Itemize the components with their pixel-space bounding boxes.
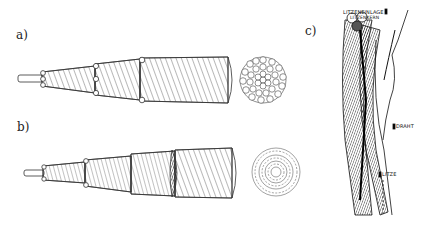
label-litze: LITZE [382, 171, 396, 177]
strand-b [24, 148, 236, 198]
strand-a [18, 57, 232, 103]
label-draht: DRAHT [396, 123, 414, 129]
cross-section-b [252, 148, 300, 196]
cross-section-a [240, 57, 287, 104]
wire-rope-c [343, 9, 409, 215]
label-litzenkern: LITZENKERN [350, 15, 379, 20]
wire-rope-illustration [0, 0, 429, 225]
